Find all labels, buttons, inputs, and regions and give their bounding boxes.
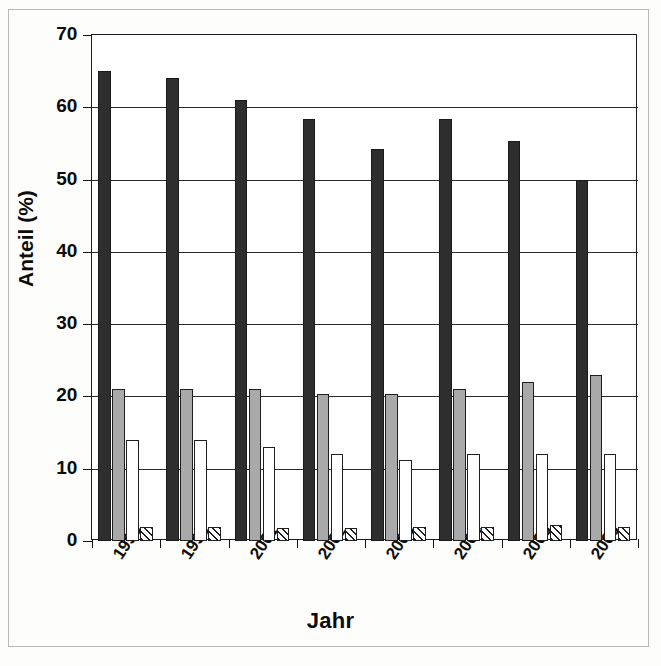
bar bbox=[508, 141, 520, 541]
bar bbox=[126, 440, 138, 541]
y-axis-tick bbox=[83, 324, 92, 325]
y-axis-tick-label: 60 bbox=[0, 95, 77, 117]
bar bbox=[140, 527, 152, 541]
bar bbox=[277, 528, 289, 541]
y-axis-tick bbox=[83, 252, 92, 253]
chart-screenshot: Anteil (%) 010203040506070 1998199920012… bbox=[0, 0, 661, 666]
y-axis-tick-label: 0 bbox=[0, 529, 77, 551]
y-axis-tick-label: 10 bbox=[0, 457, 77, 479]
x-axis-tick bbox=[638, 539, 639, 548]
y-axis-tick bbox=[83, 469, 92, 470]
y-axis-tick-label: 20 bbox=[0, 384, 77, 406]
bar bbox=[371, 149, 383, 541]
bar bbox=[331, 454, 343, 541]
bar bbox=[522, 382, 534, 541]
bar bbox=[399, 460, 411, 541]
plot-area bbox=[91, 34, 637, 540]
bar bbox=[249, 389, 261, 541]
bar bbox=[604, 454, 616, 541]
bar bbox=[618, 527, 630, 541]
bar bbox=[208, 527, 220, 541]
bar bbox=[413, 527, 425, 541]
x-axis-title: Jahr bbox=[0, 608, 661, 634]
bar bbox=[166, 78, 178, 541]
bar bbox=[385, 394, 397, 541]
y-axis-tick bbox=[83, 180, 92, 181]
bar bbox=[536, 454, 548, 541]
bar bbox=[235, 100, 247, 541]
bar bbox=[550, 525, 562, 541]
y-axis-tick-label: 30 bbox=[0, 312, 77, 334]
bars-group bbox=[92, 35, 638, 541]
y-axis-tick bbox=[83, 396, 92, 397]
bar bbox=[303, 119, 315, 541]
bar bbox=[345, 528, 357, 541]
bar bbox=[453, 389, 465, 541]
y-axis-title: Anteil (%) bbox=[14, 190, 38, 287]
bar bbox=[180, 389, 192, 541]
y-axis-tick bbox=[83, 541, 92, 542]
bar bbox=[467, 454, 479, 541]
bar-chart: Anteil (%) 010203040506070 1998199920012… bbox=[0, 0, 661, 666]
y-axis-tick-label: 50 bbox=[0, 168, 77, 190]
y-axis-tick bbox=[83, 35, 92, 36]
bar bbox=[263, 447, 275, 541]
bar bbox=[481, 527, 493, 541]
y-axis-tick-label: 70 bbox=[0, 23, 77, 45]
bar bbox=[439, 119, 451, 541]
y-axis-tick bbox=[83, 107, 92, 108]
bar bbox=[194, 440, 206, 541]
bar bbox=[317, 394, 329, 541]
bar bbox=[590, 375, 602, 541]
bar bbox=[576, 180, 588, 541]
y-axis-tick-label: 40 bbox=[0, 240, 77, 262]
bar bbox=[98, 71, 110, 541]
bar bbox=[112, 389, 124, 541]
